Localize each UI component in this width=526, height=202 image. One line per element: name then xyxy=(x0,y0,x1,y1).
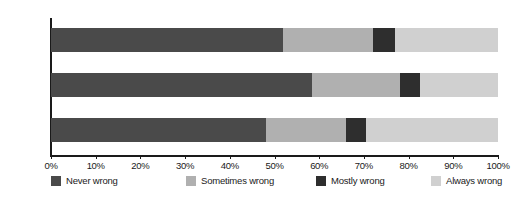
stacked-bar-chart: 0%10%20%30%40%50%60%70%80%90%100% AllWom… xyxy=(0,0,526,202)
x-axis-tick-label: 40% xyxy=(221,160,239,171)
x-axis-tick-label: 50% xyxy=(265,160,283,171)
legend-swatch-icon xyxy=(316,176,326,186)
x-axis-tick-label: 90% xyxy=(444,160,462,171)
bar-segment xyxy=(312,73,399,97)
bar-segment xyxy=(51,118,266,142)
x-axis-tick-mark xyxy=(453,155,454,159)
x-axis-tick-label: 0% xyxy=(44,160,57,171)
bar-segment xyxy=(395,28,498,52)
legend-swatch-icon xyxy=(431,176,441,186)
x-axis-tick-label: 70% xyxy=(355,160,373,171)
bar-segment xyxy=(366,118,498,142)
bar-segment xyxy=(420,73,498,97)
x-axis-tick-label: 80% xyxy=(400,160,418,171)
bar-segment xyxy=(400,73,420,97)
bar-segment xyxy=(346,118,366,142)
x-axis-tick-label: 30% xyxy=(176,160,194,171)
chart-legend: Never wrongSometimes wrongMostly wrongAl… xyxy=(51,176,511,190)
legend-label: Mostly wrong xyxy=(331,176,385,186)
plot-area: 0%10%20%30%40%50%60%70%80%90%100% AllWom… xyxy=(51,18,498,155)
x-axis-tick-mark xyxy=(409,155,410,159)
x-axis-tick-label: 100% xyxy=(486,160,509,171)
x-axis-tick-mark xyxy=(498,155,499,159)
x-axis-tick-label: 60% xyxy=(310,160,328,171)
legend-item[interactable]: Never wrong xyxy=(51,176,118,186)
bar-segment xyxy=(51,73,312,97)
x-axis-tick-mark xyxy=(51,155,52,159)
legend-label: Always wrong xyxy=(446,176,502,186)
legend-swatch-icon xyxy=(186,176,196,186)
x-axis-tick-label: 20% xyxy=(131,160,149,171)
x-axis-tick-mark xyxy=(275,155,276,159)
x-axis-tick-mark xyxy=(140,155,141,159)
legend-label: Sometimes wrong xyxy=(201,176,274,186)
bar-row xyxy=(51,118,498,142)
bar-row xyxy=(51,73,498,97)
bar-segment xyxy=(51,28,283,52)
legend-swatch-icon xyxy=(51,176,61,186)
bar-segment xyxy=(283,28,372,52)
x-axis-tick-label: 10% xyxy=(87,160,105,171)
x-axis-tick-mark xyxy=(319,155,320,159)
bar-row xyxy=(51,28,498,52)
x-axis-tick-mark xyxy=(185,155,186,159)
legend-item[interactable]: Always wrong xyxy=(431,176,502,186)
bar-segment xyxy=(266,118,346,142)
bar-segment xyxy=(373,28,395,52)
legend-item[interactable]: Sometimes wrong xyxy=(186,176,274,186)
x-axis-tick-mark xyxy=(230,155,231,159)
x-axis-tick-mark xyxy=(96,155,97,159)
legend-item[interactable]: Mostly wrong xyxy=(316,176,385,186)
legend-label: Never wrong xyxy=(66,176,118,186)
x-axis-tick-mark xyxy=(364,155,365,159)
